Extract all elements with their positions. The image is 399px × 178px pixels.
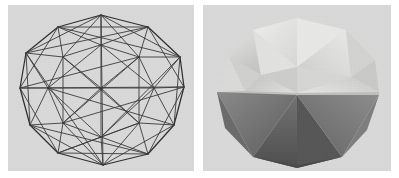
shaded-polyhedron-svg bbox=[203, 5, 391, 171]
panel-shaded bbox=[203, 5, 391, 171]
panel-wireframe bbox=[8, 5, 194, 171]
figure-root bbox=[0, 0, 399, 178]
wireframe-polyhedron-svg bbox=[8, 5, 194, 171]
